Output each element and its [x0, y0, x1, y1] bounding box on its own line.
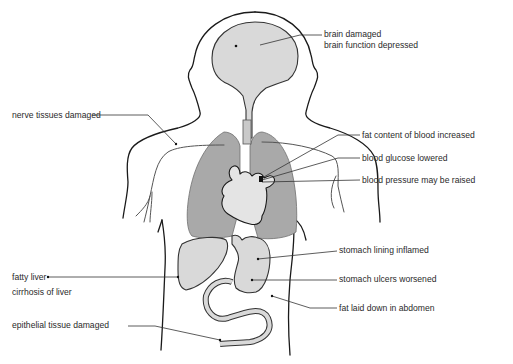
- label-brain-function: brain function depressed: [324, 40, 418, 50]
- brain: [212, 22, 298, 138]
- label-fat-abdomen: fat laid down in abdomen: [339, 303, 435, 313]
- brain-pointer-dot: [235, 45, 238, 48]
- alcohol-effects-diagram: brain damaged brain function depressed n…: [0, 0, 513, 364]
- trachea: [243, 120, 251, 144]
- stomach: [232, 235, 270, 293]
- artery-marker: [259, 176, 263, 182]
- label-fatty-liver: fatty liver: [12, 272, 47, 282]
- label-epithelial: epithelial tissue damaged: [12, 320, 109, 330]
- label-ulcers: stomach ulcers worsened: [339, 274, 437, 284]
- body-left-armpit: [158, 220, 162, 232]
- label-fat-blood: fat content of blood increased: [362, 130, 475, 140]
- leader-epithelial: [128, 326, 220, 340]
- label-cirrhosis: cirrhosis of liver: [12, 287, 72, 297]
- label-glucose: blood glucose lowered: [362, 153, 448, 163]
- leader-fat-abdomen: [272, 296, 337, 308]
- label-pressure: blood pressure may be raised: [362, 175, 475, 185]
- label-stomach-lining: stomach lining inflamed: [339, 245, 429, 255]
- body-left-torso: [161, 220, 165, 350]
- label-nerve: nerve tissues damaged: [12, 110, 101, 120]
- label-brain-damaged: brain damaged: [324, 29, 382, 39]
- leader-nerve: [92, 115, 176, 144]
- body-right-torso: [289, 218, 295, 355]
